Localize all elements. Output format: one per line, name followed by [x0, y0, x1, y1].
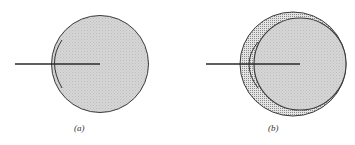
- caption-a: (a): [74, 123, 85, 133]
- panel-a: [15, 16, 149, 113]
- caption-b: (b): [268, 123, 279, 133]
- panel-b: [206, 12, 346, 116]
- figure-canvas: [0, 0, 355, 145]
